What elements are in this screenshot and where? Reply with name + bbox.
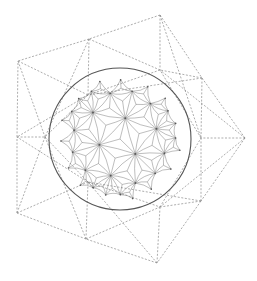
tiling-edge (85, 170, 96, 178)
wireframe-edge (202, 78, 245, 138)
tiling-edge (72, 108, 81, 112)
tiling-vertex (120, 194, 122, 196)
tiling-edge (144, 117, 156, 129)
hyperbolic-tiling (60, 79, 181, 199)
wireframe-edge (160, 70, 245, 138)
tiling-edge (156, 121, 166, 129)
tiling-edge (135, 153, 164, 154)
wireframe-edge (18, 39, 89, 61)
tiling-edge (135, 129, 156, 154)
wireframe-edge (160, 138, 201, 207)
tiling-edge (85, 156, 86, 171)
tiling-edge (85, 164, 98, 171)
tiling-edge (135, 183, 151, 189)
tiling-edge (74, 129, 89, 130)
tiling-vertex (164, 153, 166, 155)
tiling-edge (150, 104, 161, 105)
tiling-vertex (92, 112, 94, 114)
tiling-edge (93, 113, 99, 145)
tiling-vertex (84, 170, 86, 172)
tiling-vertex (179, 150, 181, 152)
tiling-vertex (78, 98, 80, 100)
tiling-vertex (150, 103, 152, 105)
tiling-edge (125, 118, 139, 133)
tiling-edge (133, 183, 136, 198)
tiling-vertex (79, 184, 81, 186)
tiling-vertex (150, 188, 152, 190)
wireframe-edge (17, 182, 88, 213)
tiling-edge (152, 129, 156, 146)
tiling-vertex (71, 111, 73, 113)
tiling-edge (109, 108, 125, 118)
wireframe-edge (86, 182, 88, 239)
tiling-edge (86, 145, 100, 156)
tiling-edge (69, 130, 74, 141)
tiling-edge (144, 104, 150, 117)
tiling-edge (72, 111, 93, 113)
tiling-edge (98, 164, 110, 176)
wireframe-edge (17, 61, 18, 137)
wireframe-edge (160, 70, 202, 78)
wireframe-edge (45, 39, 89, 137)
wireframe-edge (160, 15, 202, 78)
tiling-edge (91, 91, 110, 94)
tiling-edge (174, 123, 175, 138)
wireframe-edge (157, 201, 201, 263)
tiling-edge (69, 141, 72, 152)
tiling-edge (123, 101, 126, 118)
tiling-vertex (99, 144, 101, 146)
tiling-edge (135, 170, 142, 183)
tiling-vertex (147, 86, 149, 88)
wireframe-edge (89, 39, 160, 70)
tiling-vertex (132, 198, 134, 200)
tiling-vertex (175, 123, 177, 125)
tiling-edge (151, 173, 155, 189)
geometric-diagram (0, 0, 257, 281)
wireframe-edge (157, 207, 160, 263)
tiling-edge (135, 154, 136, 183)
tiling-vertex (167, 110, 169, 112)
tiling-edge (88, 91, 92, 101)
tiling-edge (135, 182, 147, 183)
tiling-vertex (92, 187, 94, 189)
tiling-vertex (175, 137, 177, 139)
tiling-edge (99, 145, 135, 154)
tiling-edge (74, 118, 79, 130)
tiling-edge (111, 176, 136, 183)
tiling-edge (74, 113, 93, 131)
tiling-edge (163, 153, 164, 165)
tiling-edge (98, 145, 99, 164)
tiling-edge (75, 164, 85, 171)
wireframe-edge (89, 15, 160, 39)
tiling-vertex (105, 194, 107, 196)
wireframe-edge (45, 137, 86, 239)
tiling-vertex (109, 92, 111, 94)
tiling-edge (164, 150, 179, 153)
wireframe-edge (88, 78, 202, 95)
tiling-edge (69, 121, 74, 131)
tiling-edge (99, 145, 115, 158)
tiling-edge (125, 118, 156, 128)
tiling-edge (74, 130, 99, 144)
wireframe-edge (160, 138, 245, 207)
tiling-edge (135, 154, 151, 160)
tiling-vertex (120, 79, 122, 81)
tiling-edge (164, 153, 170, 169)
tiling-edge (111, 171, 127, 176)
tiling-vertex (135, 182, 137, 184)
tiling-edge (120, 195, 132, 199)
tiling-edge (106, 193, 121, 195)
tiling-edge (99, 145, 110, 176)
tiling-edge (110, 91, 132, 94)
tiling-edge (152, 153, 165, 160)
tiling-vertex (131, 90, 133, 92)
tiling-vertex (60, 140, 62, 142)
tiling-edge (125, 118, 135, 154)
tiling-edge (61, 141, 73, 152)
tiling-edge (109, 93, 110, 108)
tiling-edge (99, 118, 125, 144)
dashed-wireframe (17, 15, 245, 263)
tiling-vertex (124, 118, 126, 120)
tiling-vertex (154, 173, 156, 175)
tiling-edge (168, 111, 176, 124)
